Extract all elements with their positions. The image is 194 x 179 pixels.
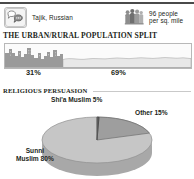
- rural-percent-label: 69%: [111, 68, 126, 77]
- people-group-icon: [124, 7, 144, 27]
- fact-language: Tajik, Russian: [4, 7, 73, 28]
- speech-bubble-language-icon: [4, 7, 27, 28]
- pie-label-shia: Shi'a Muslim 5%: [51, 96, 102, 104]
- religion-heading-rule: [93, 91, 191, 92]
- pie-label-other: Other 15%: [135, 109, 168, 117]
- urban-rural-bar: [4, 43, 192, 69]
- religion-heading: RELIGIOUS PERSUASION: [3, 87, 88, 94]
- urban-rural-labels: 31% 69%: [4, 68, 190, 79]
- religion-pie-chart: Shi'a Muslim 5% Other 15% Sunni Muslim 8…: [0, 96, 194, 179]
- urban-rural-heading: THE URBAN/RURAL POPULATION SPLIT: [3, 31, 157, 40]
- top-divider: [0, 2, 194, 4]
- facts-row: Tajik, Russian: [0, 7, 194, 30]
- infographic-panel: Tajik, Russian: [0, 0, 194, 179]
- fact-language-value: Tajik, Russian: [32, 14, 73, 21]
- fact-density: 96 people per sq. mile: [124, 7, 183, 27]
- fact-density-value: 96 people per sq. mile: [149, 10, 183, 25]
- urban-percent-label: 31%: [26, 68, 41, 77]
- pie-label-sunni: Sunni Muslim 80%: [16, 147, 54, 163]
